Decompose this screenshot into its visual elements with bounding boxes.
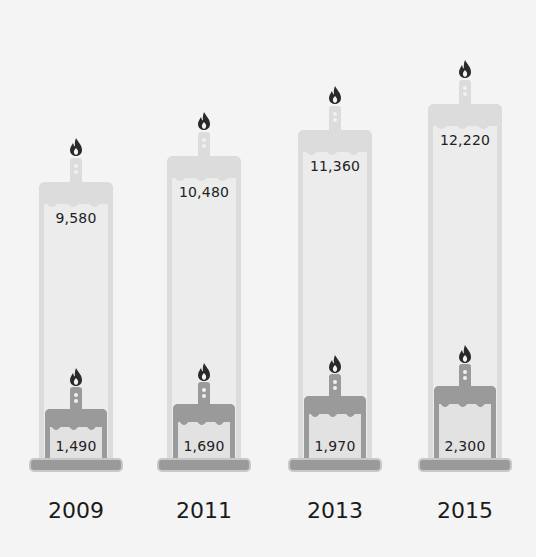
wax-drip [45,419,107,433]
year-label: 2013 [290,498,380,523]
subset-value-label: 1,690 [178,438,230,454]
candle-icon [459,364,471,386]
year-label: 2009 [31,498,121,523]
candle-base [290,460,380,470]
flame-icon [458,345,472,363]
candle-base [420,460,510,470]
candle-icon [329,106,341,130]
subset-candle-bar: 1,690 [173,404,235,466]
subset-candle-bar: 1,490 [45,409,107,466]
candle-icon [329,374,341,396]
year-label: 2011 [159,498,249,523]
total-value-label: 11,360 [303,158,367,174]
subset-value-label: 1,970 [309,438,361,454]
candle-icon [198,132,210,156]
subset-value-label: 1,490 [50,438,102,454]
year-label: 2015 [420,498,510,523]
flame-icon [69,368,83,386]
candle-icon [70,387,82,409]
total-value-label: 9,580 [44,210,108,226]
candle-chart: 9,5801,490200910,4801,690201111,3601,970… [0,0,536,557]
column-2011: 10,4801,6902011 [159,0,259,557]
candle-icon [198,382,210,404]
candle-icon [459,80,471,104]
column-2009: 9,5801,4902009 [31,0,131,557]
candle-base [31,460,121,470]
column-2015: 12,2202,3002015 [420,0,520,557]
flame-icon [328,86,342,104]
subset-candle-bar: 1,970 [304,396,366,466]
wax-drip [167,170,241,184]
flame-icon [197,112,211,130]
wax-drip [39,196,113,210]
wax-drip [298,144,372,158]
subset-value-label: 2,300 [439,438,491,454]
wax-drip [304,406,366,420]
candle-icon [70,158,82,182]
flame-icon [197,363,211,381]
flame-icon [69,138,83,156]
wax-drip [434,396,496,410]
wax-drip [428,118,502,132]
column-2013: 11,3601,9702013 [290,0,390,557]
total-value-label: 10,480 [172,184,236,200]
flame-icon [328,355,342,373]
subset-candle-bar: 2,300 [434,386,496,466]
wax-drip [173,414,235,428]
total-value-label: 12,220 [433,132,497,148]
candle-base [159,460,249,470]
flame-icon [458,60,472,78]
